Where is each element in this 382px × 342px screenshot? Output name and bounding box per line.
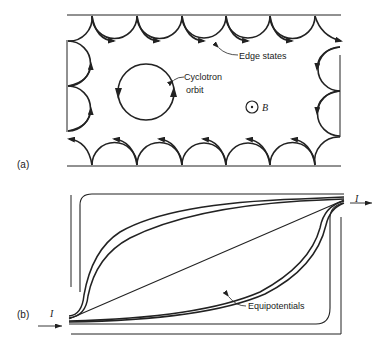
edge-states-leader (219, 48, 238, 55)
upper-inner-boundary (80, 194, 344, 292)
panel-a: Edge states Cyclotron orbit B (a) (17, 15, 341, 170)
cyclotron-orbit (115, 64, 177, 120)
top-edge-states (68, 16, 341, 41)
current-in-label: I (49, 308, 54, 319)
cyclotron-label-line1: Cyclotron (184, 72, 222, 82)
cyclotron-leader (174, 77, 184, 80)
magnetic-field-out-of-page-icon (246, 101, 258, 113)
orbit-arrow-up-icon (170, 86, 177, 97)
right-edge-states (317, 47, 340, 136)
panel-b: Equipotentials I I (b) (17, 193, 372, 334)
cyclotron-label-line2: orbit (186, 85, 204, 95)
orbit-arrow-down-icon (115, 88, 122, 99)
bottom-edge-states (69, 137, 340, 165)
equipotentials-label: Equipotentials (248, 301, 305, 311)
quantum-hall-figure: Edge states Cyclotron orbit B (a) Equipo (0, 0, 382, 342)
current-out-label: I (354, 193, 359, 204)
left-edge-states (68, 41, 91, 131)
panel-a-label: (a) (17, 159, 29, 170)
field-symbol-label: B (262, 102, 268, 113)
panel-b-label: (b) (17, 309, 29, 320)
edge-states-label: Edge states (239, 51, 287, 61)
